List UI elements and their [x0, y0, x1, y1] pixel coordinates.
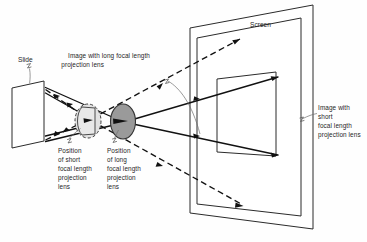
label-slide: Slide — [18, 56, 33, 63]
label-position-long-line5: lens — [107, 183, 119, 190]
label-screen-text: Screen — [250, 21, 271, 28]
slide-object — [12, 81, 44, 148]
label-image-long-line1: Image with long focal length — [68, 52, 150, 60]
label-position-long-line4: projection — [107, 174, 136, 182]
label-position-long-line3: focal length — [107, 165, 141, 173]
optics-diagram: Slide Screen Image with long focal lengt… — [0, 0, 367, 242]
label-position-short-focal: Position of short focal length projectio… — [58, 147, 92, 190]
label-image-short-line4: projection lens — [318, 131, 361, 139]
label-position-short-line1: Position — [58, 147, 82, 154]
short-focal-lens — [75, 104, 101, 138]
long-focal-lens — [111, 104, 136, 139]
label-position-short-line3: focal length — [58, 165, 92, 173]
label-image-short-focal: Image with short focal length projection… — [318, 104, 361, 139]
label-screen: Screen — [250, 21, 271, 28]
label-position-long-focal: Position of long focal length projection… — [107, 147, 141, 190]
label-image-short-line3: focal length — [318, 122, 352, 130]
leader-slide — [27, 64, 31, 84]
label-image-long-focal: Image with long focal length projection … — [61, 52, 150, 69]
label-position-long-line1: Position — [107, 147, 131, 154]
label-slide-text: Slide — [18, 56, 33, 63]
label-image-short-line1: Image with — [318, 104, 350, 112]
label-position-short-line5: lens — [58, 183, 70, 190]
figure-root: Slide Screen Image with long focal lengt… — [0, 0, 367, 242]
label-position-long-line2: of long — [107, 156, 127, 164]
label-image-short-line2: short — [318, 113, 333, 120]
label-position-short-line4: projection — [58, 174, 87, 182]
label-image-long-line2: projection lens — [61, 61, 104, 69]
label-position-short-line2: of short — [58, 156, 80, 163]
